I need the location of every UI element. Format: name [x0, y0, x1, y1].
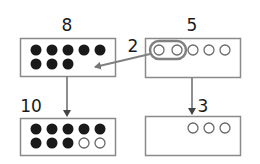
group-highlight-capsule: [150, 41, 186, 59]
box-top-right: 5: [146, 15, 241, 78]
frame: [146, 117, 241, 156]
box-bottom-right: 3: [146, 96, 241, 156]
ten-frame-diagram: 8 5 2 10 3: [0, 0, 260, 164]
box-top-left: 8: [21, 15, 116, 77]
label-eight: 8: [62, 15, 73, 35]
transfer-arrow: [95, 54, 150, 67]
label-five: 5: [187, 15, 198, 35]
label-transfer-two: 2: [128, 36, 139, 56]
open-dots: [188, 123, 230, 133]
box-bottom-left: 10: [20, 96, 115, 156]
label-three: 3: [198, 96, 209, 116]
frame: [21, 39, 116, 77]
label-ten: 10: [20, 96, 42, 116]
filled-dots: [31, 45, 106, 70]
filled-dots: [31, 124, 106, 149]
open-dots: [79, 138, 105, 148]
open-dots: [154, 45, 230, 55]
